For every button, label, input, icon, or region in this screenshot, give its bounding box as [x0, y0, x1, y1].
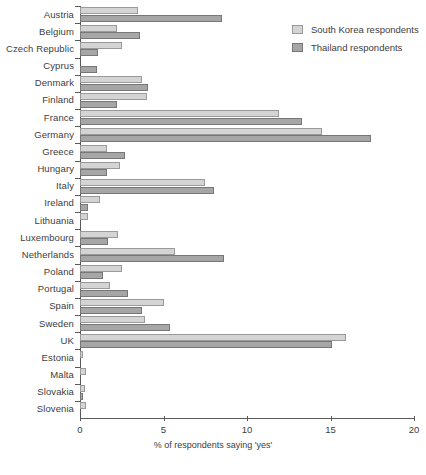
legend-label: South Korea respondents: [311, 24, 419, 35]
bar: [80, 196, 100, 203]
bar: [80, 238, 108, 245]
category-label: Austria: [0, 9, 74, 20]
category-label: Netherlands: [0, 249, 74, 260]
x-axis-tick: [331, 416, 332, 421]
category-label: Germany: [0, 129, 74, 140]
legend-label: Thailand respondents: [311, 42, 402, 53]
x-axis-tick: [247, 416, 248, 421]
category-label: Malta: [0, 369, 74, 380]
legend-item[interactable]: Thailand respondents: [292, 42, 419, 53]
legend-swatch-icon: [292, 25, 303, 34]
category-label: Finland: [0, 94, 74, 105]
bar: [80, 248, 175, 255]
category-label: UK: [0, 335, 74, 346]
bar: [80, 255, 224, 262]
plot-area: [80, 6, 414, 418]
bar: [80, 204, 88, 211]
bar: [80, 135, 371, 142]
x-axis-tick: [80, 416, 81, 421]
bar: [80, 84, 148, 91]
category-axis-labels: AustriaBelgiumCzech RepublicCyprusDenmar…: [0, 6, 74, 418]
bar: [80, 42, 122, 49]
bar: [80, 32, 140, 39]
bar: [80, 110, 279, 117]
bar: [80, 231, 118, 238]
bar: [80, 316, 145, 323]
x-axis-tick-label: 5: [161, 424, 166, 435]
bar: [80, 15, 222, 22]
category-label: Poland: [0, 266, 74, 277]
category-label: Estonia: [0, 352, 74, 363]
bar: [80, 334, 346, 341]
bar: [80, 265, 122, 272]
category-label: Czech Republic: [0, 43, 74, 54]
category-label: Portugal: [0, 283, 74, 294]
category-label: Slovakia: [0, 386, 74, 397]
legend-swatch-icon: [292, 43, 303, 52]
bar: [80, 179, 205, 186]
bar: [80, 76, 142, 83]
bar: [80, 169, 107, 176]
bar: [80, 66, 97, 73]
bar: [80, 93, 147, 100]
category-label: Italy: [0, 180, 74, 191]
bar: [80, 162, 120, 169]
category-label: Sweden: [0, 318, 74, 329]
category-label: Denmark: [0, 77, 74, 88]
bar: [80, 290, 128, 297]
category-label: Spain: [0, 300, 74, 311]
category-label: Slovenia: [0, 403, 74, 414]
bar: [80, 213, 88, 220]
bar: [80, 299, 164, 306]
category-label: Ireland: [0, 197, 74, 208]
bar: [80, 402, 86, 409]
legend: South Korea respondents Thailand respond…: [292, 24, 419, 60]
bar: [80, 49, 98, 56]
bar: [80, 128, 322, 135]
bar: [80, 368, 86, 375]
x-axis-tick: [414, 416, 415, 421]
category-label: Hungary: [0, 163, 74, 174]
bar: [80, 152, 125, 159]
category-label: Lithuania: [0, 215, 74, 226]
bar: [80, 385, 85, 392]
bar-chart: AustriaBelgiumCzech RepublicCyprusDenmar…: [0, 0, 426, 475]
bar: [80, 145, 107, 152]
legend-item[interactable]: South Korea respondents: [292, 24, 419, 35]
x-axis-tick-label: 20: [409, 424, 420, 435]
bar: [80, 341, 332, 348]
bar: [80, 272, 103, 279]
bar: [80, 101, 117, 108]
x-axis-tick-label: 0: [77, 424, 82, 435]
bar: [80, 351, 83, 358]
category-label: Belgium: [0, 26, 74, 37]
x-axis-title: % of respondents saying 'yes': [0, 440, 426, 450]
x-axis-tick: [164, 416, 165, 421]
category-label: Luxembourg: [0, 232, 74, 243]
category-label: Greece: [0, 146, 74, 157]
category-label: France: [0, 112, 74, 123]
category-label: Cyprus: [0, 60, 74, 71]
bar: [80, 187, 214, 194]
bar: [80, 25, 117, 32]
bar: [80, 7, 138, 14]
bar: [80, 118, 302, 125]
bar: [80, 307, 142, 314]
bar: [80, 324, 170, 331]
x-axis-tick-label: 15: [325, 424, 336, 435]
x-axis-tick-label: 10: [242, 424, 253, 435]
bar: [80, 282, 110, 289]
bar: [80, 393, 83, 400]
